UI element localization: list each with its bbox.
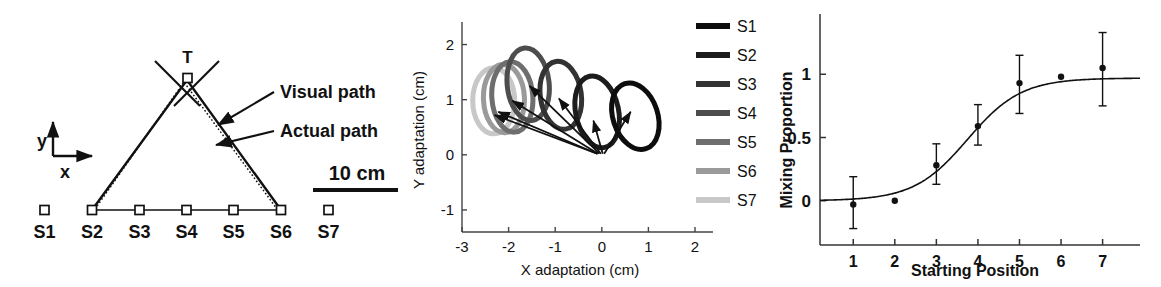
mixing-data-points (849, 33, 1106, 229)
adaptation-xtick-label: -3 (455, 238, 468, 255)
adaptation-xaxis-label: X adaptation (cm) (521, 261, 639, 278)
actual-path-annotation: Actual path (280, 121, 378, 141)
axis-indicator-x-label: x (60, 162, 70, 182)
start-marker-s4 (182, 206, 191, 215)
data-point (850, 201, 856, 207)
adaptation-axes: -3-2-1012-1012 (441, 22, 713, 255)
scale-bar-label: 10 cm (329, 162, 386, 184)
setup-diagram-svg: T S1 S2 S3 S4 S5 S6 S7 y x Visual path A… (0, 0, 400, 287)
panel-mixing-proportion: 123456700.51 Starting Position Mixing Pr… (760, 0, 1161, 287)
adaptation-ytick-label: 1 (446, 91, 454, 108)
mixing-ytick-label: 0 (802, 192, 811, 211)
path-cross-left (155, 61, 200, 106)
legend-label-s2: S2 (737, 47, 757, 64)
adaptation-xtick-label: -2 (502, 238, 515, 255)
data-point (933, 162, 939, 168)
mixing-axes: 123456700.51 (787, 14, 1140, 270)
adaptation-xtick-label: 0 (598, 238, 606, 255)
legend-label-s5: S5 (737, 134, 757, 151)
adaptation-series-group (473, 46, 667, 156)
start-marker-s3 (135, 206, 144, 215)
data-point (975, 123, 981, 129)
data-point (1016, 80, 1022, 86)
adaptation-legend: S1S2S3S4S5S6S7 (696, 18, 757, 209)
start-label-s4: S4 (175, 222, 197, 242)
legend-label-s4: S4 (737, 105, 757, 122)
mixing-xaxis-label: Starting Position (911, 262, 1039, 279)
legend-label-s3: S3 (737, 76, 757, 93)
adaptation-chart-svg: -3-2-1012-1012 S1S2S3S4S5S6S7 X adaptati… (400, 0, 760, 287)
axis-indicator-y-label: y (37, 131, 47, 151)
start-label-s2: S2 (81, 222, 103, 242)
visual-path-line (95, 82, 277, 209)
start-label-s1: S1 (33, 222, 55, 242)
start-label-s5: S5 (222, 222, 244, 242)
start-marker-s6 (277, 206, 286, 215)
target-label: T (182, 48, 193, 67)
mixing-xtick-label: 6 (1057, 253, 1066, 270)
mixing-ytick-label: 1 (802, 65, 811, 84)
logistic-fit-path (820, 78, 1140, 200)
start-label-s3: S3 (128, 222, 150, 242)
data-point (892, 198, 898, 204)
mixing-fit-curve (820, 78, 1140, 200)
legend-label-s6: S6 (737, 163, 757, 180)
panel-experimental-setup: T S1 S2 S3 S4 S5 S6 S7 y x Visual path A… (0, 0, 400, 287)
start-marker-s2 (88, 206, 97, 215)
start-label-s7: S7 (317, 222, 339, 242)
data-point (1099, 65, 1105, 71)
legend-label-s7: S7 (737, 192, 757, 209)
mixing-xtick-label: 7 (1098, 253, 1107, 270)
start-marker-s1 (40, 206, 49, 215)
adaptation-yaxis-label: Y adaptation (cm) (410, 71, 427, 189)
adaptation-xtick-label: 1 (644, 238, 652, 255)
mixing-chart-svg: 123456700.51 Starting Position Mixing Pr… (760, 0, 1161, 287)
adaptation-xtick-label: 2 (691, 238, 699, 255)
mixing-yaxis-label: Mixing Proportion (778, 72, 795, 209)
visual-path-annotation: Visual path (280, 82, 376, 102)
target-marker (183, 74, 192, 83)
start-marker-s7 (324, 206, 333, 215)
visual-path-leader (218, 92, 274, 125)
panel-adaptation-ellipses: -3-2-1012-1012 S1S2S3S4S5S6S7 X adaptati… (400, 0, 760, 287)
adaptation-xtick-label: -1 (549, 238, 562, 255)
legend-label-s1: S1 (737, 18, 757, 35)
data-point (1058, 74, 1064, 80)
mixing-xtick-label: 2 (890, 253, 899, 270)
adaptation-ytick-label: 0 (446, 146, 454, 163)
mixing-xtick-label: 1 (849, 253, 858, 270)
start-marker-s5 (229, 206, 238, 215)
actual-path-line (92, 80, 281, 210)
adaptation-ytick-label: -1 (441, 201, 454, 218)
start-label-s6: S6 (270, 222, 292, 242)
adaptation-ytick-label: 2 (446, 36, 454, 53)
